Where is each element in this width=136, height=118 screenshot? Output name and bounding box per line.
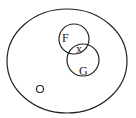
venn-diagram: F x G <box>0 0 136 118</box>
small-circle <box>37 86 44 93</box>
set-g-label: G <box>79 64 88 78</box>
set-f-label: F <box>62 31 69 45</box>
intersection-label: x <box>76 42 82 56</box>
